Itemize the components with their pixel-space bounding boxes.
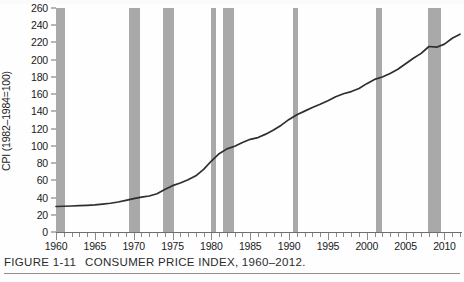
x-tick-mark-minor [351,233,352,237]
x-tick-mark-minor [204,233,205,237]
x-tick-mark-major [328,233,329,240]
y-tick-label: 160 [0,88,48,100]
x-tick-mark-minor [382,233,383,237]
x-tick-label: 1965 [84,240,107,252]
y-tick-mark [51,8,56,9]
x-tick-label: 1975 [161,240,184,252]
x-tick-mark-minor [343,233,344,237]
x-tick-mark-major [173,233,174,240]
x-tick-mark-minor [274,233,275,237]
x-tick-label: 1990 [278,240,301,252]
x-tick-mark-minor [359,233,360,237]
x-tick-mark-minor [437,233,438,237]
x-tick-mark-minor [87,233,88,237]
y-tick-label: 40 [0,192,48,204]
figure-container: CPI (1982–1984=100) 02040608010012014016… [0,0,464,282]
y-tick-mark [51,94,56,95]
x-tick-mark-minor [297,233,298,237]
x-tick-mark-minor [72,233,73,237]
figure-caption: FIGURE 1-11CONSUMER PRICE INDEX, 1960–20… [4,256,460,268]
x-tick-mark-minor [64,233,65,237]
x-tick-mark-minor [219,233,220,237]
y-tick-label: 120 [0,123,48,135]
y-tick-label: 220 [0,36,48,48]
x-tick-mark-minor [281,233,282,237]
x-tick-label: 1995 [317,240,340,252]
figure-caption-text: CONSUMER PRICE INDEX, 1960–2012. [85,256,306,268]
cpi-series-svg [56,8,460,232]
x-tick-mark-major [95,233,96,240]
y-tick-label: 200 [0,54,48,66]
x-tick-mark-major [406,233,407,240]
x-tick-mark-minor [118,233,119,237]
y-tick-mark [51,197,56,198]
x-tick-mark-minor [103,233,104,237]
x-tick-mark-minor [165,233,166,237]
y-tick-label: 180 [0,71,48,83]
x-tick-mark-minor [460,233,461,237]
x-tick-mark-minor [305,233,306,237]
x-tick-label: 1960 [45,240,68,252]
x-tick-mark-minor [375,233,376,237]
y-tick-mark [51,25,56,26]
x-tick-mark-minor [79,233,80,237]
y-tick-label: 80 [0,157,48,169]
figure-number: FIGURE 1-11 [4,256,76,268]
y-tick-label: 20 [0,209,48,221]
cpi-line [56,34,460,206]
y-tick-mark [51,145,56,146]
x-tick-mark-minor [336,233,337,237]
x-tick-mark-major [211,233,212,240]
y-tick-label: 100 [0,140,48,152]
y-tick-label: 140 [0,105,48,117]
x-tick-mark-minor [312,233,313,237]
x-tick-mark-minor [157,233,158,237]
x-tick-label: 2005 [394,240,417,252]
y-tick-label: 240 [0,19,48,31]
caption-rule [4,273,460,274]
x-tick-mark-minor [320,233,321,237]
x-axis-line [56,232,462,233]
y-tick-mark [51,128,56,129]
x-tick-mark-minor [390,233,391,237]
x-tick-mark-major [250,233,251,240]
y-axis-label-text: CPI (1982–1984=100) [0,71,12,171]
x-tick-mark-major [134,233,135,240]
x-tick-label: 2000 [355,240,378,252]
y-tick-mark [51,111,56,112]
y-tick-mark [51,76,56,77]
y-tick-mark [51,214,56,215]
x-tick-mark-minor [141,233,142,237]
x-tick-mark-minor [398,233,399,237]
x-tick-mark-minor [180,233,181,237]
x-tick-mark-minor [266,233,267,237]
x-tick-label: 1970 [122,240,145,252]
x-tick-mark-minor [227,233,228,237]
x-tick-mark-minor [188,233,189,237]
y-tick-mark [51,163,56,164]
x-tick-label: 1985 [239,240,262,252]
x-tick-mark-major [367,233,368,240]
page-bleed-top [0,0,464,4]
x-tick-mark-minor [258,233,259,237]
x-tick-mark-minor [452,233,453,237]
y-tick-label: 0 [0,226,48,238]
y-tick-mark [51,42,56,43]
x-tick-mark-major [289,233,290,240]
x-tick-mark-minor [421,233,422,237]
x-tick-mark-minor [196,233,197,237]
y-tick-label: 260 [0,2,48,14]
x-tick-mark-minor [110,233,111,237]
y-tick-label: 60 [0,174,48,186]
x-tick-label: 1980 [200,240,223,252]
x-tick-mark-minor [149,233,150,237]
x-tick-mark-minor [429,233,430,237]
x-tick-mark-minor [126,233,127,237]
x-tick-mark-minor [242,233,243,237]
x-tick-mark-minor [413,233,414,237]
y-tick-mark [51,180,56,181]
x-tick-mark-major [56,233,57,240]
y-tick-mark [51,59,56,60]
x-tick-mark-major [444,233,445,240]
x-tick-mark-minor [235,233,236,237]
